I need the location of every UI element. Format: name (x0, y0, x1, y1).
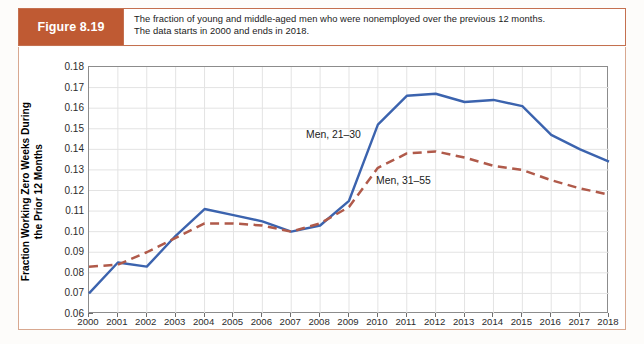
y-tick-label: 0.07 (65, 287, 84, 298)
y-tick-label: 0.14 (65, 143, 84, 154)
x-tick-label: 2014 (482, 316, 503, 327)
y-tick-label: 0.12 (65, 184, 84, 195)
figure-number-label: Figure 8.19 (37, 20, 104, 34)
x-tick-label: 2017 (568, 316, 589, 327)
x-tick-label: 2016 (540, 316, 561, 327)
y-tick-label: 0.13 (65, 163, 84, 174)
x-tick-label: 2012 (424, 316, 445, 327)
x-tick-mark (290, 313, 291, 317)
x-tick-mark (348, 313, 349, 317)
x-tick-mark (550, 313, 551, 317)
x-tick-mark (117, 313, 118, 317)
x-tick-mark (492, 313, 493, 317)
y-axis-title: Fraction Working Zero Weeks Duringthe Pr… (18, 72, 48, 312)
y-tick-label: 0.18 (65, 61, 84, 72)
y-axis-tick-labels: 0.180.170.160.150.140.130.120.110.100.09… (50, 66, 84, 313)
y-tick-label: 0.17 (65, 81, 84, 92)
x-tick-mark (319, 313, 320, 317)
caption-line-2: The data starts in 2000 and ends in 2018… (134, 25, 617, 37)
x-tick-label: 2009 (337, 316, 358, 327)
x-tick-mark (377, 313, 378, 317)
x-tick-label: 2005 (222, 316, 243, 327)
x-tick-label: 2004 (193, 316, 214, 327)
x-tick-mark (521, 313, 522, 317)
x-tick-label: 2007 (280, 316, 301, 327)
x-tick-mark (608, 313, 609, 317)
x-tick-label: 2011 (395, 316, 416, 327)
figure-number-badge: Figure 8.19 (19, 9, 123, 45)
plot-area (88, 66, 608, 313)
series-lines (89, 67, 609, 314)
y-tick-label: 0.11 (65, 205, 84, 216)
x-axis-tick-labels: 2000200120022003200420052006200720082009… (88, 316, 608, 330)
y-axis-title-text: Fraction Working Zero Weeks Duringthe Pr… (20, 102, 45, 281)
x-tick-label: 2003 (164, 316, 185, 327)
x-tick-mark (464, 313, 465, 317)
x-tick-label: 2006 (251, 316, 272, 327)
y-tick-label: 0.10 (65, 225, 84, 236)
y-tick-label: 0.09 (65, 246, 84, 257)
x-tick-mark (406, 313, 407, 317)
series-label-men-31-55: Men, 31–55 (376, 175, 431, 186)
series-label-men-21-30: Men, 21–30 (306, 129, 361, 140)
x-tick-mark (579, 313, 580, 317)
y-tick-label: 0.15 (65, 122, 84, 133)
series-path-1 (89, 151, 609, 266)
x-tick-label: 2018 (597, 316, 618, 327)
x-tick-mark (175, 313, 176, 317)
x-tick-label: 2002 (135, 316, 156, 327)
x-tick-mark (88, 313, 89, 317)
caption-line-1: The fraction of young and middle-aged me… (134, 13, 617, 25)
y-tick-label: 0.16 (65, 102, 84, 113)
x-tick-label: 2000 (77, 316, 98, 327)
x-tick-label: 2001 (106, 316, 127, 327)
y-tick-label: 0.08 (65, 266, 84, 277)
x-tick-label: 2008 (308, 316, 329, 327)
x-tick-mark (232, 313, 233, 317)
x-tick-label: 2015 (511, 316, 532, 327)
x-tick-label: 2013 (453, 316, 474, 327)
x-tick-mark (435, 313, 436, 317)
figure-container: Figure 8.19 The fraction of young and mi… (0, 0, 644, 344)
x-tick-mark (204, 313, 205, 317)
figure-caption-band: Figure 8.19 The fraction of young and mi… (18, 8, 626, 46)
figure-caption-text: The fraction of young and middle-aged me… (123, 9, 625, 45)
x-tick-mark (261, 313, 262, 317)
series-path-0 (89, 94, 609, 294)
x-tick-label: 2010 (366, 316, 387, 327)
x-tick-mark (146, 313, 147, 317)
